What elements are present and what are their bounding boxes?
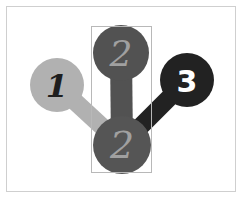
- node-3[interactable]: 3: [160, 53, 214, 107]
- node-2-bottom-label: 2: [109, 123, 134, 167]
- node-1-label: 1: [46, 67, 68, 105]
- key-diagram: 1 3 2 2: [0, 0, 241, 199]
- node-1[interactable]: 1: [30, 58, 84, 112]
- node-3-label: 3: [177, 64, 198, 99]
- node-2-top[interactable]: 2: [93, 25, 149, 81]
- node-2-top-label: 2: [109, 33, 133, 74]
- node-2-bottom[interactable]: 2: [93, 116, 151, 174]
